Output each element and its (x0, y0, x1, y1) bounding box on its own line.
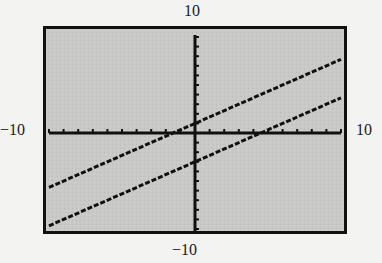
graph-screen (0, 0, 382, 263)
